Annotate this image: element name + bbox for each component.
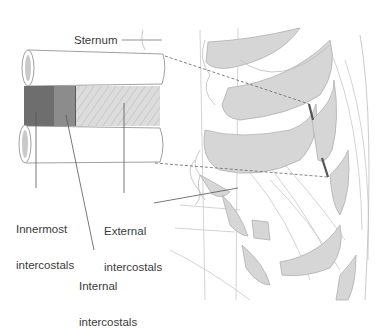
innermost-intercostal-layer xyxy=(24,86,54,126)
label-sternum: Sternum xyxy=(74,34,117,46)
rib-11 xyxy=(336,255,356,300)
external-intercostal-layer xyxy=(76,86,160,126)
rib-6 xyxy=(200,175,230,197)
rib-7 xyxy=(222,195,248,236)
rib-1 xyxy=(206,28,300,68)
label-innermost-intercostals: Innermost intercostals xyxy=(16,199,74,295)
rib-9 xyxy=(242,245,270,285)
sternum-pointer xyxy=(122,30,162,50)
label-internal-line2: intercostals xyxy=(79,316,137,328)
rib-10 xyxy=(280,225,341,276)
rib-8 xyxy=(252,220,270,240)
inset-rib-section xyxy=(19,50,165,163)
inset-lower-rib xyxy=(26,126,163,163)
rib-5 xyxy=(330,150,349,215)
label-internal-line1: Internal xyxy=(79,280,137,292)
rib-bands xyxy=(200,28,356,300)
label-innermost-line2: intercostals xyxy=(16,259,74,271)
label-internal-intercostals: Internal intercostals xyxy=(79,256,137,330)
internal-intercostal-layer xyxy=(54,86,76,126)
label-innermost-line1: Innermost xyxy=(16,223,74,235)
inset-upper-rib xyxy=(28,50,165,86)
label-external-line1: External xyxy=(104,225,162,237)
